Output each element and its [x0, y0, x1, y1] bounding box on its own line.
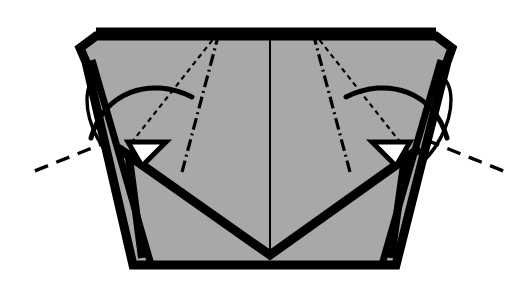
origami-diagram-canvas: [0, 0, 532, 289]
origami-diagram-figure: Origami folding step diagram Symmetric t…: [0, 0, 532, 289]
